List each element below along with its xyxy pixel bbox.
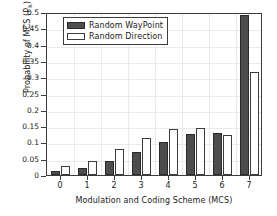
legend-item: Random WayPoint (67, 20, 163, 31)
gridline-vertical (209, 14, 210, 175)
legend-item: Random Direction (67, 31, 163, 42)
bar (115, 149, 124, 175)
y-axis-tick-label: 0.45 (0, 25, 39, 33)
x-axis-tick-mark (60, 176, 61, 180)
legend: Random WayPoint Random Direction (63, 17, 168, 45)
gridline-horizontal (47, 96, 261, 97)
bar (78, 168, 87, 175)
gridline-horizontal (47, 128, 261, 129)
y-axis-tick-label: 0.5 (0, 9, 39, 17)
gridline-horizontal (47, 63, 261, 64)
x-axis-tick-mark (249, 176, 250, 180)
x-axis-tick-label: 6 (212, 181, 232, 191)
y-axis-tick-label: 0.3 (0, 74, 39, 82)
bar (88, 161, 97, 175)
bar (250, 72, 259, 175)
gridline-horizontal (47, 79, 261, 80)
bar (159, 142, 168, 175)
x-axis-tick-mark (141, 176, 142, 180)
x-axis-tick-label: 0 (50, 181, 70, 191)
bar (186, 134, 195, 175)
x-axis-tick-label: 3 (131, 181, 151, 191)
x-axis-tick-mark (168, 176, 169, 180)
y-axis-tick-label: 0.25 (0, 91, 39, 99)
x-axis-label: Modulation and Coding Scheme (MCS) (46, 196, 262, 205)
bar (240, 15, 249, 175)
bar (61, 166, 70, 175)
bar (105, 161, 114, 175)
y-axis-tick-label: 0.15 (0, 123, 39, 131)
x-axis-tick-mark (87, 176, 88, 180)
legend-label-random-waypoint: Random WayPoint (89, 21, 163, 30)
x-axis-tick-label: 1 (77, 181, 97, 191)
x-axis-tick-label: 5 (185, 181, 205, 191)
bar (132, 152, 141, 175)
x-axis-tick-mark (222, 176, 223, 180)
x-axis-tick-mark (114, 176, 115, 180)
x-axis-tick-mark (195, 176, 196, 180)
bar (196, 128, 205, 175)
gridline-horizontal (47, 47, 261, 48)
bar (213, 133, 222, 175)
bar (51, 171, 60, 175)
figure-canvas: Probability of MCS (Pk) 00.050.10.150.20… (0, 0, 277, 216)
legend-label-random-direction: Random Direction (89, 32, 162, 41)
bar (223, 135, 232, 175)
y-axis-tick-label: 0 (0, 172, 39, 180)
y-axis-tick-label: 0.35 (0, 58, 39, 66)
y-axis-tick-label: 0.4 (0, 42, 39, 50)
gridline-vertical (236, 14, 237, 175)
plot-area: Random WayPoint Random Direction (46, 13, 262, 176)
y-axis-tick-label: 0.2 (0, 107, 39, 115)
x-axis-tick-label: 2 (104, 181, 124, 191)
legend-swatch-random-waypoint (67, 22, 85, 29)
bar (142, 138, 151, 175)
bar (169, 129, 178, 175)
y-axis-tick-mark (41, 176, 46, 177)
x-axis-tick-label: 7 (239, 181, 259, 191)
y-axis-tick-label: 0.05 (0, 156, 39, 164)
x-axis-tick-label: 4 (158, 181, 178, 191)
y-axis-tick-label: 0.1 (0, 139, 39, 147)
legend-swatch-random-direction (67, 33, 85, 40)
gridline-vertical (182, 14, 183, 175)
gridline-horizontal (47, 112, 261, 113)
